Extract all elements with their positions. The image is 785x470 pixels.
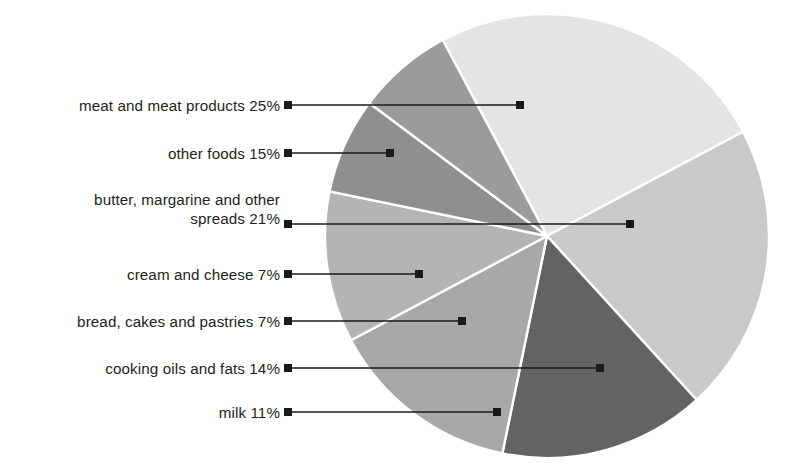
pie-label-other-foods: other foods 15%	[168, 144, 280, 163]
pie-chart-canvas	[0, 0, 785, 470]
pie-label-cooking-oils-and-fats: cooking oils and fats 14%	[105, 359, 280, 378]
leader-marker-start-meat-and-meat-products	[284, 101, 292, 109]
leader-marker-end-butter-margarine-and-other-spreads	[626, 220, 634, 228]
leader-marker-end-cooking-oils-and-fats	[596, 364, 604, 372]
pie-slices-group	[325, 14, 769, 458]
pie-label-cream-and-cheese: cream and cheese 7%	[127, 265, 280, 284]
leader-marker-start-cooking-oils-and-fats	[284, 364, 292, 372]
pie-label-bread-cakes-and-pastries: bread, cakes and pastries 7%	[77, 312, 280, 331]
leader-marker-end-cream-and-cheese	[415, 270, 423, 278]
leader-marker-start-milk	[284, 408, 292, 416]
leader-marker-start-butter-margarine-and-other-spreads	[284, 220, 292, 228]
leader-marker-end-milk	[493, 408, 501, 416]
leader-marker-start-bread-cakes-and-pastries	[284, 317, 292, 325]
leader-marker-end-bread-cakes-and-pastries	[458, 317, 466, 325]
leader-marker-end-other-foods	[386, 149, 394, 157]
leader-marker-end-meat-and-meat-products	[516, 101, 524, 109]
leader-marker-start-other-foods	[284, 149, 292, 157]
pie-chart-figure: meat and meat products 25%other foods 15…	[0, 0, 785, 470]
pie-label-meat-and-meat-products: meat and meat products 25%	[79, 96, 280, 115]
pie-label-butter-margarine-and-other-spreads: butter, margarine and other spreads 21%	[94, 190, 280, 228]
pie-label-milk: milk 11%	[219, 403, 280, 422]
leader-marker-start-cream-and-cheese	[284, 270, 292, 278]
